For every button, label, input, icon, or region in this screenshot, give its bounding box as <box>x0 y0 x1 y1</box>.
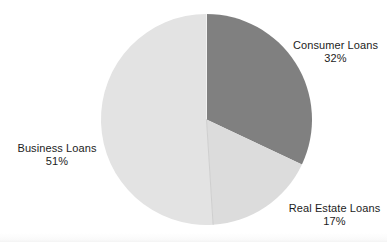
pie-label-business-loans-value: 51% <box>11 155 103 168</box>
pie-label-business-loans-name: Business Loans <box>11 142 103 155</box>
pie-label-consumer-loans: Consumer Loans 32% <box>288 39 383 64</box>
pie-chart-page: Consumer Loans 32% Real Estate Loans 17%… <box>0 0 387 242</box>
pie-label-real-estate-loans: Real Estate Loans 17% <box>285 202 384 227</box>
pie-label-business-loans: Business Loans 51% <box>11 142 103 167</box>
pie-label-consumer-loans-name: Consumer Loans <box>288 39 383 52</box>
pie-label-real-estate-loans-name: Real Estate Loans <box>285 202 384 215</box>
pie-chart-figure: Consumer Loans 32% Real Estate Loans 17%… <box>0 0 387 242</box>
pie-slice-business-loans[interactable] <box>101 14 213 225</box>
pie-label-consumer-loans-value: 32% <box>288 52 383 65</box>
pie-label-real-estate-loans-value: 17% <box>285 215 384 228</box>
